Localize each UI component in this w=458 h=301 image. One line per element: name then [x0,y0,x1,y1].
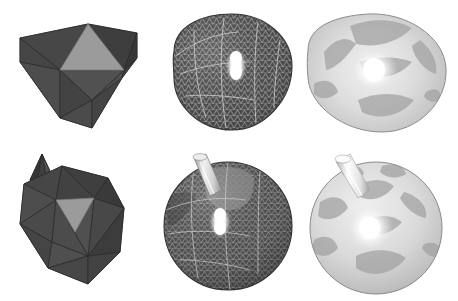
wireframe-subdivision-blob-render [150,0,310,150]
figure-canvas [0,0,458,301]
panel-top-right [298,0,458,150]
specular-highlight [209,205,231,239]
smooth-blob-surface [298,0,458,150]
smooth-sphere-surface [300,148,458,301]
polyhedron-facets [20,166,124,284]
base-polyhedron-irregular-render [0,0,160,150]
smooth-shaded-blob-render [298,0,458,150]
specular-highlight [225,48,247,84]
panel-bottom-right [300,148,458,301]
smooth-shaded-sphere-with-spike-render [300,148,458,301]
specular-highlight [346,204,394,252]
panel-top-middle [150,0,310,150]
panel-top-left [0,0,160,150]
wireframe-sphere-with-spike-render [150,148,310,301]
base-polyhedron-with-spike-render [0,148,160,301]
panel-bottom-left [0,148,160,301]
sphere-surface [150,148,310,301]
specular-highlight [350,48,398,92]
panel-bottom-middle [150,148,310,301]
